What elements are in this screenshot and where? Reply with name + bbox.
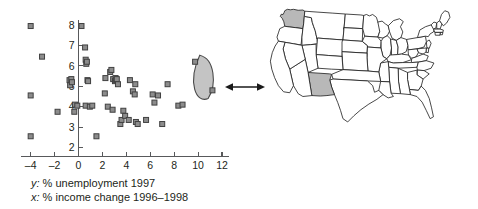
- data-point-marker: [83, 45, 88, 50]
- x-tick-label: 6: [147, 159, 153, 171]
- state-michigan: [388, 19, 403, 41]
- united-states-map: [252, 4, 478, 176]
- state-pennsylvania: [407, 36, 427, 50]
- y-axis-key: y:: [31, 177, 40, 189]
- data-point-marker: [156, 93, 161, 98]
- data-point-marker: [210, 88, 215, 93]
- state-kansas: [342, 52, 368, 71]
- state-ohio: [396, 38, 408, 55]
- data-point-marker: [103, 76, 108, 81]
- x-tick-label: –4: [25, 159, 37, 171]
- x-tick-label: 4: [123, 159, 129, 171]
- data-point-marker: [135, 122, 140, 127]
- data-point-marker: [55, 109, 60, 114]
- data-point-marker: [180, 102, 185, 107]
- y-tick-label: 2: [69, 141, 75, 153]
- state-texas: [330, 79, 383, 122]
- data-point-marker: [133, 82, 138, 87]
- data-point-marker: [114, 77, 119, 82]
- axis-caption: y: % unemployment 1997 x: % income chang…: [31, 176, 291, 204]
- y-tick-label: 8: [69, 19, 75, 31]
- arrow-head-left: [225, 83, 233, 91]
- state-new-jersey: [426, 40, 431, 48]
- data-point-marker: [109, 67, 114, 72]
- state-massachusetts: [433, 29, 443, 32]
- data-point-marker: [86, 79, 91, 84]
- x-tick-label: 2: [99, 159, 105, 171]
- state-rhode-island: [440, 32, 443, 34]
- data-point-marker: [110, 107, 115, 112]
- caption-line-y: y: % unemployment 1997: [31, 176, 291, 190]
- state-colorado: [316, 55, 343, 70]
- data-point-marker: [193, 59, 198, 64]
- state-kentucky: [387, 54, 412, 63]
- data-point-marker: [105, 104, 110, 109]
- data-point-marker: [102, 91, 107, 96]
- state-wyoming: [316, 38, 343, 56]
- y-tick-label: 7: [69, 39, 75, 51]
- data-point-marker: [165, 82, 170, 87]
- data-point-marker: [69, 80, 74, 85]
- y-tick-label: 6: [69, 60, 75, 72]
- data-point-marker: [90, 103, 95, 108]
- data-point-marker: [79, 24, 84, 29]
- x-tick-label: 10: [192, 159, 204, 171]
- state-tennessee: [388, 62, 418, 69]
- data-point-marker: [152, 100, 157, 105]
- figure-container: 2345678–4–2024681012: [0, 0, 478, 209]
- state-washington: [280, 9, 305, 28]
- x-axis-key: x:: [31, 191, 40, 203]
- data-point-marker: [121, 108, 126, 113]
- scatter-plot-svg: 2345678–4–2024681012: [0, 0, 240, 175]
- state-florida: [409, 86, 433, 119]
- scatter-points: [28, 24, 215, 139]
- state-north-dakota: [344, 14, 364, 30]
- y-axis-description: % unemployment 1997: [40, 177, 156, 189]
- data-point-marker: [150, 92, 155, 97]
- data-point-marker: [127, 78, 132, 83]
- data-point-marker: [28, 93, 33, 98]
- us-map-svg: [252, 4, 478, 144]
- data-point-marker: [75, 103, 80, 108]
- data-point-marker: [28, 24, 33, 29]
- caption-line-x: x: % income change 1996–1998: [31, 190, 291, 204]
- data-point-marker: [144, 117, 149, 122]
- state-south-dakota: [343, 28, 363, 42]
- data-point-marker: [72, 109, 77, 114]
- state-minnesota: [363, 14, 381, 37]
- data-point-marker: [40, 54, 45, 59]
- y-tick-label: 3: [69, 121, 75, 133]
- data-point-marker: [94, 134, 99, 139]
- state-shapes: [270, 9, 450, 122]
- x-tick-label: 8: [171, 159, 177, 171]
- data-point-marker: [160, 122, 165, 127]
- state-wisconsin: [378, 21, 390, 38]
- data-point-marker: [132, 92, 137, 97]
- data-point-marker: [28, 134, 33, 139]
- data-point-marker: [126, 117, 131, 122]
- data-point-marker: [84, 59, 89, 64]
- x-tick-label: 12: [216, 159, 228, 171]
- state-north-carolina: [417, 61, 434, 71]
- scatter-plot-panel: 2345678–4–2024681012: [0, 0, 240, 175]
- data-point-marker: [115, 82, 120, 87]
- state-new-mexico: [308, 72, 334, 96]
- x-tick-label: –2: [49, 159, 61, 171]
- x-axis-description: % income change 1996–1998: [40, 191, 189, 203]
- x-tick-label: 0: [76, 159, 82, 171]
